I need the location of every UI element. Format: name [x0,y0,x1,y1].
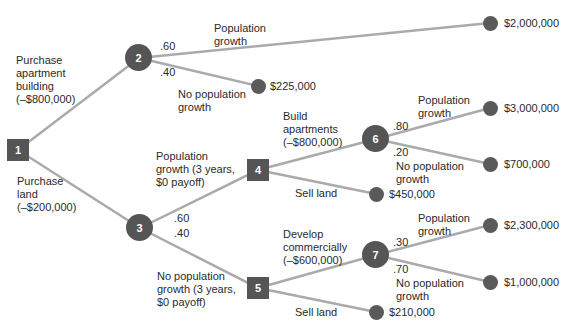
label-line: (–$200,000) [17,201,76,214]
probability-label: .60 [160,40,175,53]
chance-node-2: 2 [125,44,152,71]
payoff-value: $210,000 [389,306,435,319]
probability-label: .70 [393,263,408,276]
terminal-dot [483,16,498,31]
node-label: 6 [372,133,378,145]
node-label: 5 [255,282,261,294]
terminal-dot [251,79,266,94]
chance-node-7: 7 [362,241,389,268]
tree-edges [0,0,565,328]
node-label: 3 [136,222,142,234]
label-line: (–$600,000) [283,254,347,267]
branch-label-purchase-apartment: Purchase apartment building (–$800,000) [16,54,75,106]
probability-label: .40 [174,227,189,240]
label-line: Population [214,22,266,35]
label-line: (–$800,000) [16,93,75,106]
label-line: growth (3 years, [156,163,235,176]
probability-label: .40 [160,66,175,79]
chance-node-3: 3 [126,214,153,241]
label-line: building [16,80,75,93]
payoff-value: $2,000,000 [504,17,559,30]
node-label: 7 [372,249,378,261]
terminal-dot [483,101,498,116]
decision-node-5: 5 [247,277,269,299]
terminal-dot [369,187,384,202]
label-line: growth [418,107,470,120]
label-line: No population [157,270,236,283]
node-label: 1 [15,144,21,156]
decision-node-1: 1 [7,139,29,161]
terminal-dot [483,218,498,233]
branch-label-pop-growth: Population growth [418,212,470,238]
branch-label-develop-commercially: Develop commercially (–$600,000) [283,228,347,267]
branch-label-pop-growth: Population growth [214,22,266,48]
branch-label-pop-growth-3yr: Population growth (3 years, $0 payoff) [156,150,235,189]
probability-label: .20 [393,146,408,159]
branch-label-build-apartments: Build apartments (–$800,000) [283,110,342,149]
label-line: growth [396,290,464,303]
probability-label: .80 [393,120,408,133]
decision-node-4: 4 [247,159,269,181]
label-line: Population [156,150,235,163]
label-line: growth [214,35,266,48]
label-line: $0 payoff) [156,176,235,189]
branch-label-no-pop-growth: No population growth [178,88,246,114]
label-line: Build [283,110,342,123]
branch-label-purchase-land: Purchase land (–$200,000) [17,175,76,214]
label-line: No population [396,277,464,290]
probability-label: .60 [174,212,189,225]
label-line: apartment [16,67,75,80]
label-line: growth [396,173,464,186]
label-line: No population [178,88,246,101]
probability-label: .30 [393,236,408,249]
branch-label-no-pop-growth: No population growth [396,277,464,303]
label-line: $0 payoff) [157,296,236,309]
payoff-value: $2,300,000 [504,219,559,232]
label-line: (–$800,000) [283,136,342,149]
node-label: 4 [255,164,261,176]
branch-label-sell-land: Sell land [295,306,337,319]
label-line: growth [178,101,246,114]
label-line: Develop [283,228,347,241]
payoff-value: $700,000 [504,158,550,171]
branch-label-pop-growth: Population growth [418,94,470,120]
label-line: Purchase [16,54,75,67]
payoff-value: $225,000 [270,80,316,93]
label-line: commercially [283,241,347,254]
branch-label-no-pop-growth-3yr: No population growth (3 years, $0 payoff… [157,270,236,309]
payoff-value: $450,000 [389,188,435,201]
branch-label-no-pop-growth: No population growth [396,160,464,186]
label-line: growth (3 years, [157,283,236,296]
payoff-value: $3,000,000 [504,102,559,115]
terminal-dot [483,157,498,172]
label-line: apartments [283,123,342,136]
label-line: Population [418,94,470,107]
label-line: Population [418,212,470,225]
label-line: Purchase [17,175,76,188]
label-line: growth [418,225,470,238]
terminal-dot [483,275,498,290]
payoff-value: $1,000,000 [504,276,559,289]
label-line: land [17,188,76,201]
chance-node-6: 6 [362,125,389,152]
branch-label-sell-land: Sell land [295,187,337,200]
node-label: 2 [135,52,141,64]
terminal-dot [369,305,384,320]
label-line: No population [396,160,464,173]
